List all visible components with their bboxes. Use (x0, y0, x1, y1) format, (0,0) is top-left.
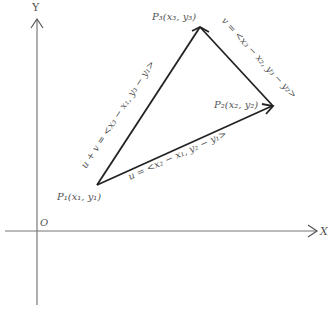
point-p3-label: P₃(x₃, y₃) (151, 11, 196, 22)
origin-label: O (40, 217, 48, 228)
y-axis-label: Y (31, 1, 40, 14)
vector-diagram: Y X O P₁(x₁, y₁) P₂(x₂, y₂) P₃(x₃, y₃) u… (0, 0, 328, 313)
diagram-canvas: Y X O P₁(x₁, y₁) P₂(x₂, y₂) P₃(x₃, y₃) u… (0, 0, 328, 313)
vector-v-label: v = <x₃ − x₂, y₃ − y₂> (220, 15, 300, 100)
vector-u-plus-v-arrowhead-icon (192, 27, 209, 32)
point-p1-label: P₁(x₁, y₁) (56, 191, 101, 202)
x-axis-label: X (319, 225, 328, 238)
vector-u-label: u = <x₂ − x₁, y₂ − y₁> (126, 128, 228, 182)
point-p2-label: P₂(x₂, y₂) (213, 99, 258, 110)
